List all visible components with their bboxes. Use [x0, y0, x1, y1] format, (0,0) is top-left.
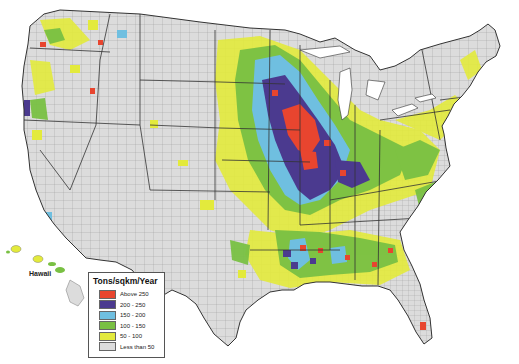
legend-item: 150 - 200 [93, 310, 160, 321]
swatch-200-250 [99, 300, 116, 309]
legend-item: Above 250 [93, 289, 160, 300]
legend-item: Less than 50 [93, 342, 160, 353]
legend-item: 100 - 150 [93, 321, 160, 332]
hawaii-label: Hawaii [29, 270, 51, 277]
legend-item: 50 - 100 [93, 331, 160, 342]
legend: Tons/sqkm/Year Above 250 200 - 250 150 -… [88, 272, 165, 358]
swatch-100-150 [99, 321, 116, 330]
legend-label: 150 - 200 [120, 312, 145, 318]
swatch-less-than-50 [99, 342, 116, 351]
us-county-map [0, 0, 519, 364]
legend-label: 50 - 100 [120, 333, 142, 339]
swatch-50-100 [99, 332, 116, 341]
legend-label: 100 - 150 [120, 323, 145, 329]
legend-label: Less than 50 [120, 344, 154, 350]
legend-title: Tons/sqkm/Year [93, 276, 160, 286]
legend-label: 200 - 250 [120, 302, 145, 308]
swatch-150-200 [99, 311, 116, 320]
swatch-above-250 [99, 290, 116, 299]
legend-label: Above 250 [120, 291, 149, 297]
legend-item: 200 - 250 [93, 300, 160, 311]
